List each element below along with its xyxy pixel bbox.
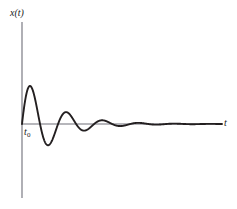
- x-axis-label: t: [224, 118, 227, 128]
- damped-oscillation-curve: [22, 86, 222, 145]
- damped-oscillation-figure: x(t) t t0: [0, 0, 237, 209]
- t0-start-marker-label: t0: [24, 127, 31, 139]
- y-axis-label: x(t): [10, 8, 24, 18]
- axes-group: [22, 22, 222, 198]
- t0-subscript: 0: [27, 131, 31, 139]
- plot-canvas: [0, 0, 237, 209]
